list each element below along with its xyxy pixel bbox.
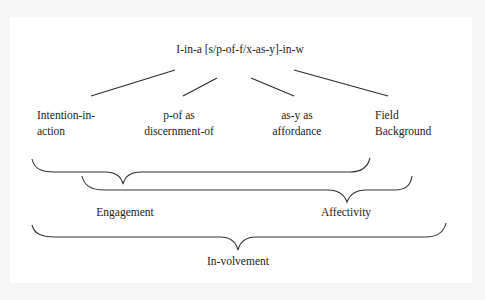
node-field-background: Field Background (375, 109, 431, 138)
node-label-line2: Background (375, 125, 431, 138)
connector-line-background (294, 70, 388, 96)
node-intention-in-action: Intention-in- action (37, 109, 95, 137)
connector-line-discernment (183, 78, 217, 96)
node-discernment-of: p-of as discernment-of (144, 109, 214, 137)
node-label-line1: p-of as (163, 109, 195, 122)
node-label-line1: as-y as (281, 109, 313, 122)
connector-line-intention (91, 70, 175, 96)
concept-diagram: I-in-a [s/p-of-f/x-as-y]-in-w Intention-… (0, 0, 485, 300)
engagement-brace (32, 158, 370, 184)
node-label-line1: Intention-in- (37, 109, 95, 121)
involvement-brace (32, 223, 446, 250)
involvement-label: In-volvement (207, 255, 270, 267)
node-label-line2: action (37, 125, 65, 137)
root-label: I-in-a [s/p-of-f/x-as-y]-in-w (176, 43, 304, 56)
affectivity-label: Affectivity (321, 206, 371, 219)
node-label-line2: affordance (273, 125, 322, 137)
node-label-line2: discernment-of (144, 125, 214, 137)
node-affordance: as-y as affordance (273, 109, 322, 137)
node-label-line1: Field (375, 109, 399, 121)
connector-line-affordance (251, 78, 294, 96)
affectivity-brace (82, 176, 412, 202)
engagement-label: Engagement (96, 206, 154, 219)
